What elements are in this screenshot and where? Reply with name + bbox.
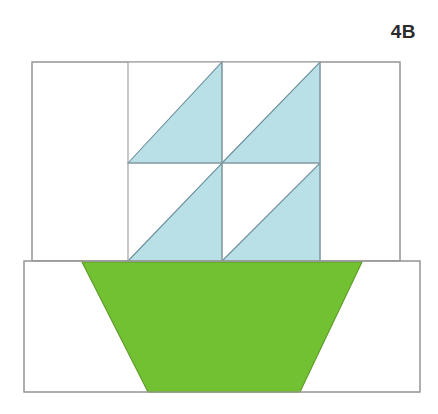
quilt-block-diagram <box>0 0 438 414</box>
quilt-block-page: 4B <box>0 0 438 414</box>
